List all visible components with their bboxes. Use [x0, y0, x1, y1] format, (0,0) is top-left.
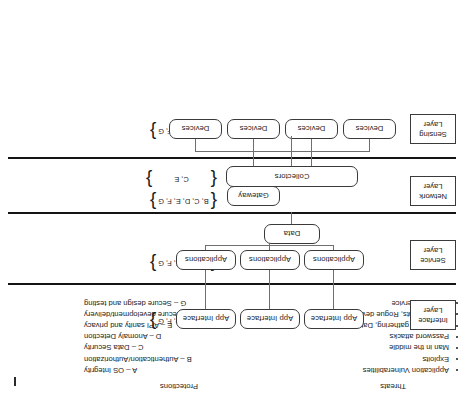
layer-label-line2: Layer: [424, 305, 443, 315]
connector: [269, 243, 270, 250]
list-item-label: Password attacks: [389, 332, 449, 341]
node-applications: Applications: [240, 250, 300, 270]
layer-label-line1: Interface: [418, 315, 448, 325]
set-annotation-network-gateway: { B, C, D, E, F, G }: [150, 197, 217, 206]
node-gateway: Gateway: [227, 186, 280, 206]
layer-label-line1: Sensing: [419, 129, 446, 139]
layer-label-network: Network Layer: [410, 176, 456, 206]
connector: [269, 270, 270, 309]
list-item: C – Data Security: [84, 342, 274, 353]
list-item: Password attacks: [328, 331, 458, 342]
set-value: B, C, D, E, F, G: [158, 197, 209, 206]
bullet-icon: [456, 302, 458, 304]
legend-threats-title: Threats: [328, 381, 458, 392]
bullet-icon: [456, 358, 458, 360]
bullet-icon: [456, 325, 458, 327]
node-devices: Devices: [169, 119, 222, 139]
layer-label-interface: Interface Layer: [410, 300, 456, 330]
list-item-label: Exploits: [422, 355, 449, 364]
list-item-label: Man in the middle: [389, 343, 449, 352]
node-devices: Devices: [227, 119, 280, 139]
list-item: G – Secure design and testing: [84, 297, 274, 308]
set-annotation-network-collectors: { C, E }: [146, 175, 217, 184]
list-item: Application Vulnerabilities: [328, 365, 458, 376]
node-collectors: Collectors: [226, 166, 358, 187]
node-applications: Applications: [176, 250, 236, 270]
list-item-label: Application Vulnerabilities: [363, 366, 449, 375]
connector: [291, 136, 292, 166]
layer-label-line1: Service: [420, 255, 445, 265]
connector: [333, 270, 334, 309]
layer-label-line1: Network: [419, 191, 447, 201]
layer-divider: [8, 157, 456, 159]
node-devices: Devices: [343, 119, 396, 139]
layer-label-line2: Layer: [424, 245, 443, 255]
legend-protections-title: Protections: [84, 381, 274, 392]
bullet-icon: [456, 347, 458, 349]
connector: [206, 245, 334, 246]
node-app-interface: App Interface: [176, 309, 236, 329]
connector: [205, 270, 206, 309]
node-applications: Applications: [304, 250, 364, 270]
diagram-canvas: Threats Application Vulnerabilities Expl…: [0, 0, 472, 402]
layer-divider: [8, 212, 456, 214]
node-devices: Devices: [285, 119, 338, 139]
node-app-interface: App Interface: [304, 309, 364, 329]
bullet-icon: [456, 336, 458, 338]
connector: [291, 212, 292, 224]
list-item: Man in the middle: [328, 342, 458, 353]
layer-label-line2: Layer: [424, 181, 443, 191]
list-item: B – Authentication/Authorization: [84, 353, 274, 364]
connector: [205, 245, 206, 250]
list-item: Exploits: [328, 353, 458, 364]
bullet-icon: [456, 369, 458, 371]
connector: [195, 151, 370, 152]
connector: [333, 245, 334, 250]
layer-label-service: Service Layer: [410, 240, 456, 270]
set-value: C, E: [174, 175, 188, 184]
layer-label-line2: Layer: [424, 119, 443, 129]
list-item: D – Anomaly Detection: [84, 331, 274, 342]
list-item: A – OS Integrity: [84, 365, 274, 376]
node-app-interface: App Interface: [240, 309, 300, 329]
node-data: Data: [264, 224, 320, 244]
layer-divider: [8, 283, 456, 285]
scan-artifact: [14, 377, 16, 386]
bullet-icon: [456, 313, 458, 315]
layer-label-sensing: Sensing Layer: [410, 114, 456, 144]
